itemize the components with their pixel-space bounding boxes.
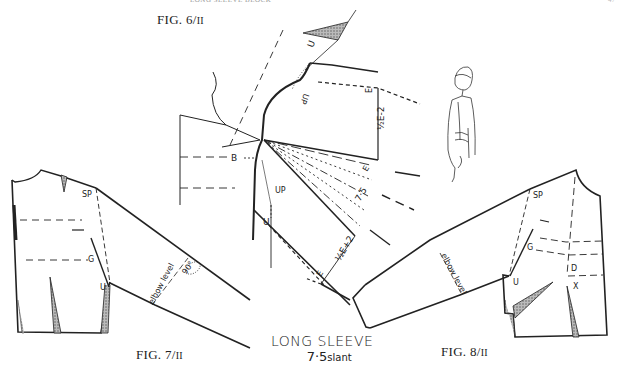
caption-title: LONG SLEEVE bbox=[271, 333, 373, 349]
caption-slant-value: 7·5 bbox=[307, 349, 328, 364]
book-page: LONG SLEEVE BLOCK 47 bbox=[0, 0, 621, 378]
fig6-caption: FIG. 6/II bbox=[157, 12, 204, 28]
fig6-label-u-bottom: U bbox=[263, 217, 270, 227]
fig6-label-half-e-plus-2: ½E+2 bbox=[333, 234, 356, 263]
fig6-labels: U UP E ½E-2 B UP U E 7·5 E ½E+2 bbox=[231, 39, 386, 278]
fig6-label-u-top: U bbox=[305, 39, 317, 49]
fig8-diagram bbox=[353, 170, 607, 337]
fig8-label-d: D bbox=[571, 264, 577, 273]
fig7-caption: FIG. 7/II bbox=[136, 347, 183, 363]
fig7-label-g: G bbox=[88, 255, 94, 264]
fig8-label-sp: SP bbox=[533, 191, 543, 200]
fig7-caption-text: FIG. 7/ bbox=[136, 347, 176, 362]
fig6-label-half-e-minus-2: ½E-2 bbox=[376, 107, 386, 130]
fig8-label-x: X bbox=[573, 282, 579, 291]
fig6-label-e-mid: E bbox=[361, 164, 371, 173]
fig6-caption-text: FIG. 6/ bbox=[157, 12, 197, 27]
fig6-label-up-bottom: UP bbox=[275, 186, 286, 195]
fig8-caption: FIG. 8/II bbox=[441, 344, 488, 360]
fig6-label-up-top: UP bbox=[298, 92, 310, 105]
fig7-label-sp: SP bbox=[82, 190, 92, 199]
fig7-diagram bbox=[12, 170, 250, 348]
fig8-label-elbow-level: elbow level bbox=[439, 252, 468, 296]
fig8-labels: SP G U D X elbow level bbox=[439, 191, 579, 296]
fig7-label-elbow-level: elbow level bbox=[147, 262, 176, 306]
caption-subtitle: 7·5slant bbox=[271, 349, 373, 364]
fig8-caption-text: FIG. 8/ bbox=[441, 344, 481, 359]
fig8-label-u: U bbox=[513, 278, 519, 287]
fig8-caption-roman: II bbox=[481, 347, 488, 358]
fig8-label-g: G bbox=[527, 243, 533, 252]
woman-figure-illustration bbox=[448, 67, 475, 182]
pattern-diagrams: U UP E ½E-2 B UP U E 7·5 E ½E+2 bbox=[0, 0, 621, 378]
fig6-label-seven-five: 7·5 bbox=[353, 186, 369, 203]
fig7-label-u: U bbox=[100, 283, 106, 292]
fig6-caption-roman: II bbox=[197, 15, 204, 26]
fig6-label-e-top: E bbox=[365, 88, 374, 93]
diagram-caption: LONG SLEEVE 7·5slant bbox=[271, 333, 373, 364]
fig6-diagram bbox=[180, 10, 420, 305]
caption-slant-unit: slant bbox=[327, 352, 351, 363]
fig6-label-b: B bbox=[231, 153, 237, 163]
fig7-caption-roman: II bbox=[176, 350, 183, 361]
